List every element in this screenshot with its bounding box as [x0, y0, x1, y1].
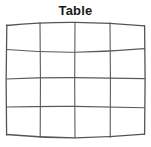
table-grid	[0, 0, 151, 147]
table-row-line-3	[7, 106, 145, 107]
table-row-line-1	[7, 49, 145, 53]
table-col-line-right	[145, 26, 146, 135]
table-figure: Table	[0, 0, 151, 147]
table-col-line-left	[6, 25, 7, 135]
table-grid-svg	[0, 0, 151, 147]
table-row-line-2	[7, 78, 145, 79]
